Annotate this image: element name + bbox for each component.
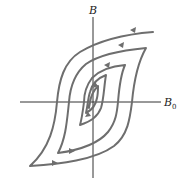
arrow-icon — [130, 27, 136, 33]
hysteresis-curve — [30, 32, 153, 166]
x-axis-label-main: B — [163, 96, 172, 109]
y-axis-label: B — [88, 4, 97, 17]
arrow-icon — [118, 42, 124, 48]
arrow-icon — [52, 160, 58, 166]
arrow-icon — [69, 148, 75, 154]
arrow-icon — [104, 62, 110, 68]
x-axis-label: B0 — [163, 96, 177, 111]
x-axis-label-subscript: 0 — [172, 103, 176, 111]
hysteresis-diagram: B B0 — [0, 0, 191, 184]
